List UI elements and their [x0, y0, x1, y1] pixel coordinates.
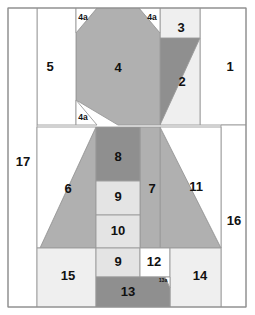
piece-label-5: 5	[46, 59, 53, 74]
piece-label-4: 4	[114, 60, 122, 75]
pattern-canvas: 132454a4a4a17166117891015912141313a	[0, 0, 255, 315]
piece-label-2: 2	[178, 74, 185, 89]
piece-label-4a-bl: 4a	[78, 112, 88, 122]
pieces-layer	[8, 8, 246, 307]
piece-label-12: 12	[147, 254, 161, 269]
piece-label-15: 15	[61, 268, 75, 283]
piece-label-8: 8	[114, 149, 121, 164]
piece-label-4a-tl: 4a	[78, 12, 88, 22]
piece-label-6: 6	[64, 181, 71, 196]
piece-label-13: 13	[121, 284, 135, 299]
piece-label-9a: 9	[114, 189, 121, 204]
piece-label-9b: 9	[114, 254, 121, 269]
piece-label-4a-tr: 4a	[147, 12, 157, 22]
piece-label-14: 14	[193, 268, 208, 283]
piece-label-7: 7	[148, 181, 155, 196]
piece-label-11: 11	[189, 179, 203, 194]
piece-label-16: 16	[227, 213, 241, 228]
piece-label-10: 10	[111, 223, 125, 238]
piece-label-1: 1	[226, 59, 233, 74]
quilt-block-pattern: 132454a4a4a17166117891015912141313a	[0, 0, 255, 315]
piece-label-3: 3	[177, 20, 184, 35]
piece-label-13a: 13a	[159, 277, 168, 283]
piece-label-17: 17	[16, 154, 30, 169]
pattern-piece-1[interactable]	[200, 8, 246, 125]
pattern-piece-5[interactable]	[37, 8, 76, 125]
